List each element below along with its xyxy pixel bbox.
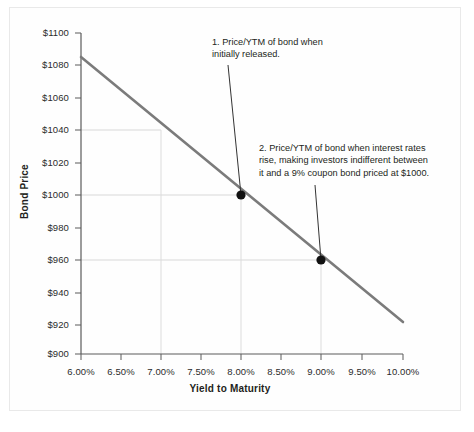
y-tick-label-1020: $1020 — [25, 157, 69, 168]
y-tick-label-960: $960 — [25, 254, 69, 265]
leader-line-1 — [228, 65, 241, 195]
y-tick-label-920: $920 — [25, 319, 69, 330]
annotation-2: 2. Price/YTM of bond when interest rates… — [259, 142, 459, 179]
y-tick-label-1000: $1000 — [25, 189, 69, 200]
annotation-1: 1. Price/YTM of bond when initially rele… — [212, 36, 362, 61]
y-tick-label-1080: $1080 — [25, 59, 69, 70]
data-point-2 — [316, 255, 325, 264]
data-point-1 — [236, 190, 245, 199]
y-tick-label-1060: $1060 — [25, 92, 69, 103]
y-tick-label-1040: $1040 — [25, 124, 69, 135]
x-tick-label-1000: 10.00% — [377, 366, 429, 377]
x-axis-title: Yield to Maturity — [130, 383, 330, 394]
y-tick-label-1100: $1100 — [25, 27, 69, 38]
y-tick-label-980: $980 — [25, 222, 69, 233]
price-yield-line — [81, 57, 403, 322]
y-tick-label-940: $940 — [25, 287, 69, 298]
y-axis-ticks — [75, 33, 81, 354]
y-axis-title: Bond Price — [19, 152, 30, 232]
y-tick-label-900: $900 — [25, 348, 69, 359]
x-axis-ticks — [81, 354, 403, 360]
bond-price-yield-chart: $1100 $1080 $1060 $1040 $1020 $1000 $980… — [0, 0, 474, 432]
